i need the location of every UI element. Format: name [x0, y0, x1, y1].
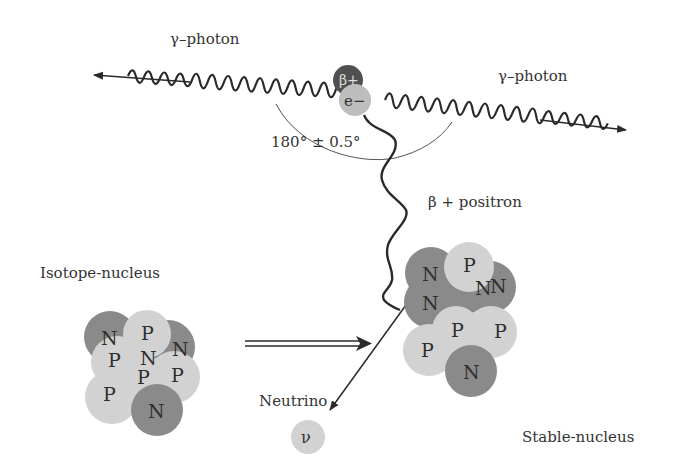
electron-label: e−: [344, 92, 365, 110]
neutrino-particle: ν: [291, 420, 325, 454]
svg-text:N: N: [490, 275, 507, 297]
svg-text:P: P: [494, 320, 507, 342]
positron-track: [364, 115, 407, 310]
svg-text:P: P: [171, 364, 184, 386]
isotope-nucleus: N P N N P P P P N: [84, 310, 200, 436]
neutrino-arrow: [330, 298, 411, 410]
svg-text:N: N: [422, 292, 439, 314]
stable-nucleus: N P N N N P P P N: [403, 242, 517, 397]
svg-text:N: N: [463, 361, 480, 383]
svg-text:P: P: [141, 322, 154, 344]
positron-electron-pair: β+ e−: [333, 65, 371, 116]
neutrino-label: Neutrino: [259, 392, 327, 410]
reaction-arrow: [245, 336, 372, 351]
svg-text:P: P: [108, 349, 121, 371]
svg-text:N: N: [475, 277, 492, 299]
svg-text:P: P: [421, 339, 434, 361]
svg-text:N: N: [172, 338, 189, 360]
photon-right-wave: [384, 93, 626, 130]
positron-label: β + positron: [428, 193, 522, 211]
beta-plus-label: β+: [339, 72, 359, 88]
photon-right-label: γ–photon: [498, 67, 567, 85]
svg-text:N: N: [422, 263, 439, 285]
svg-text:N: N: [101, 327, 118, 349]
stable-label: Stable-nucleus: [522, 428, 634, 446]
photon-left-wave: [94, 69, 342, 98]
svg-text:P: P: [463, 254, 476, 276]
isotope-label: Isotope-nucleus: [40, 264, 160, 282]
diagram-canvas: β+ e− N P N N P P P P N N P N: [0, 0, 679, 471]
photon-left-label: γ–photon: [170, 30, 239, 48]
svg-text:P: P: [137, 366, 150, 388]
neutrino-symbol: ν: [301, 428, 311, 447]
svg-text:P: P: [103, 383, 116, 405]
angle-label: 180° ± 0.5°: [271, 133, 361, 151]
svg-text:P: P: [451, 319, 464, 341]
svg-text:N: N: [148, 400, 165, 422]
